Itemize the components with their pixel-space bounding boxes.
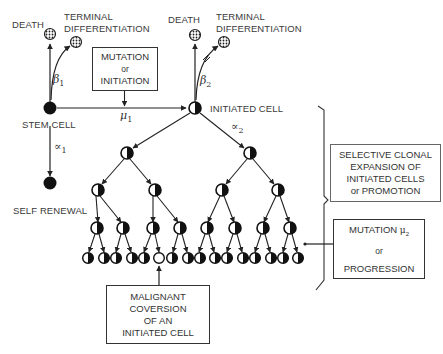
beta1-label: β1 <box>53 73 64 88</box>
stem-cell-label: STEM CELL <box>22 119 76 130</box>
beta2-label: β2 <box>200 74 211 89</box>
mu1-label: μ1 <box>120 109 132 124</box>
brace-icon <box>316 106 328 290</box>
malignant-cell-icon <box>154 253 165 264</box>
initiated-death-label: DEATH <box>168 14 200 25</box>
death-cell-icon <box>190 30 201 41</box>
self-renewal-cell-icon <box>44 177 57 190</box>
initiated-terminal-label-1: TERMINAL <box>216 11 265 22</box>
mutation-initiation-box: MUTATION or INITIATION <box>92 47 158 91</box>
terminal-differentiation-cell-icon <box>71 37 82 48</box>
progression-box: MUTATION μ2 or PROGRESSION <box>333 219 425 279</box>
alpha1-label: ∝1 <box>54 140 67 155</box>
promotion-box: SELECTIVE CLONAL EXPANSION OF INITIATED … <box>330 144 441 202</box>
stem-terminal-label-2: DIFFERENTIATION <box>64 23 150 34</box>
initiated-cell-icon <box>189 102 201 114</box>
malignant-conversion-box: MALIGNANT COVERSION OF AN INITIATED CELL <box>106 285 210 344</box>
stem-cell-icon <box>44 102 57 115</box>
initiated-cell-branch <box>189 30 230 115</box>
tree-nodes <box>83 147 304 263</box>
terminal-differentiation-cell-icon <box>219 37 230 48</box>
alpha2-label: ∝2 <box>231 120 244 135</box>
stem-terminal-label-1: TERMINAL <box>64 11 113 22</box>
initiated-cell-label: INITIATED CELL <box>210 103 283 114</box>
death-cell-icon <box>45 29 56 40</box>
self-renewal-label: SELF RENEWAL <box>13 205 87 216</box>
stem-death-label: DEATH <box>12 19 44 30</box>
initiated-terminal-label-2: DIFFERENTIATION <box>216 23 302 34</box>
